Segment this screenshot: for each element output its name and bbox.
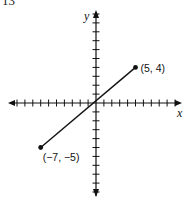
- coordinate-plane: (5, 4) (−7, −5) x y: [0, 0, 186, 202]
- y-axis-label: y: [83, 9, 90, 23]
- line-segment: [41, 67, 136, 147]
- point-b-label: (−7, −5): [43, 151, 80, 163]
- point-a-label: (5, 4): [141, 62, 166, 74]
- point-b-marker: [38, 145, 43, 150]
- axes: [8, 10, 182, 197]
- x-axis-label: x: [176, 106, 183, 120]
- y-axis-down-arrow-icon: [93, 189, 99, 197]
- x-axis-left-arrow-icon: [8, 100, 15, 106]
- point-a-marker: [133, 65, 138, 70]
